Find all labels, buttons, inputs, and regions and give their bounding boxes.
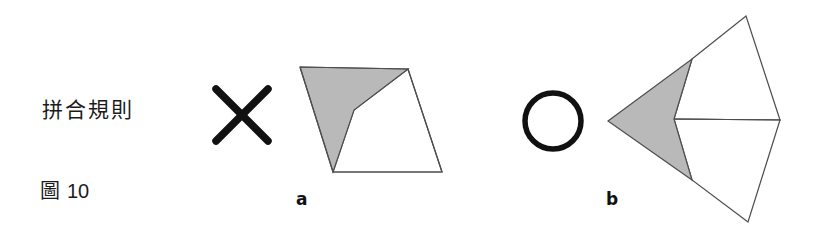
x-mark-operator-icon xyxy=(216,89,268,141)
figure-artwork xyxy=(0,0,820,242)
figure-canvas: 拼合規則 圖10 a b xyxy=(0,0,820,242)
panel-b-shape xyxy=(608,16,780,222)
circle-operator-icon xyxy=(525,93,581,149)
panel-b-white-face-lower xyxy=(674,119,780,222)
circle-mark-ring xyxy=(525,93,581,149)
panel-a-shape xyxy=(300,67,442,172)
